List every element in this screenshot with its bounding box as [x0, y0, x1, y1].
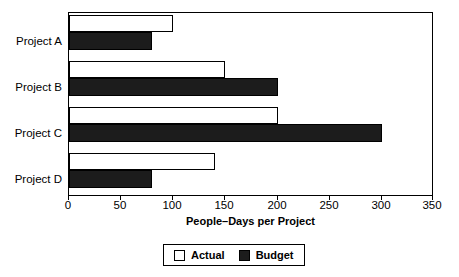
category-label-project-c: Project C [0, 127, 62, 139]
legend-label-actual: Actual [191, 249, 225, 261]
open-square-swatch-icon [174, 250, 185, 261]
legend-label-budget: Budget [256, 249, 294, 261]
bar-budget-project-c [69, 124, 382, 142]
x-tick-label-50: 50 [114, 199, 127, 212]
category-label-project-b: Project B [0, 81, 62, 93]
bar-actual-project-b [69, 61, 225, 78]
category-label-project-a: Project A [0, 35, 62, 47]
legend-item-budget: Budget [239, 249, 294, 261]
bar-chart-figure: Project A Project B Project C Project D [0, 0, 459, 277]
x-tick-label-100: 100 [162, 199, 181, 212]
x-tick-label-300: 300 [371, 199, 390, 212]
legend-item-actual: Actual [174, 249, 225, 261]
bar-budget-project-a [69, 32, 152, 50]
bar-actual-project-d [69, 153, 215, 170]
bar-actual-project-a [69, 15, 173, 32]
bar-budget-project-d [69, 170, 152, 188]
x-axis-title: People–Days per Project [68, 215, 433, 227]
category-axis-labels: Project A Project B Project C Project D [0, 12, 64, 196]
x-tick-label-350: 350 [422, 199, 441, 212]
filled-square-swatch-icon [239, 250, 250, 261]
bars-container [69, 13, 432, 195]
x-tick-label-150: 150 [214, 199, 233, 212]
x-tick-label-0: 0 [65, 199, 71, 212]
x-axis-tick-labels: 0 50 100 150 200 250 300 350 [0, 199, 459, 215]
chart-legend: Actual Budget [163, 244, 305, 266]
bar-actual-project-c [69, 107, 278, 124]
x-tick-label-250: 250 [319, 199, 338, 212]
x-tick-label-200: 200 [267, 199, 286, 212]
category-label-project-d: Project D [0, 173, 62, 185]
bar-budget-project-b [69, 78, 278, 96]
plot-area [68, 12, 433, 196]
